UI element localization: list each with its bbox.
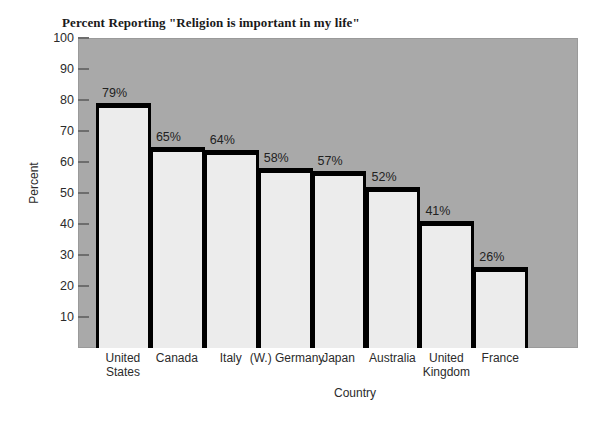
x-axis-label-line: France <box>465 352 535 366</box>
y-axis-tick-label-90: 90 <box>34 63 74 76</box>
x-axis-tick-labels: UnitedStatesCanadaItaly(W.) GermanyJapan… <box>78 352 578 388</box>
y-axis-tick-label-70: 70 <box>34 125 74 138</box>
bar-france <box>473 267 528 348</box>
y-axis-tick-60 <box>78 161 89 163</box>
bar-value-label-6: 41% <box>425 205 450 218</box>
y-axis-tick-90 <box>78 68 89 70</box>
y-axis-tick-label-30: 30 <box>34 249 74 262</box>
bar-value-label-1: 65% <box>156 131 181 144</box>
bar-value-label-7: 26% <box>479 251 504 264</box>
bar-italy <box>204 150 259 348</box>
y-axis-tick-50 <box>78 192 89 194</box>
bar-value-label-3: 58% <box>264 152 289 165</box>
y-axis-tick-label-80: 80 <box>34 94 74 107</box>
bar-united-states <box>96 103 151 348</box>
bar-united-kingdom <box>419 221 474 348</box>
chart-figure: Percent Reporting "Religion is important… <box>0 0 607 421</box>
plot-area: 79%65%64%58%57%52%41%26% <box>78 38 578 348</box>
y-axis-tick-10 <box>78 316 89 318</box>
bar-value-label-2: 64% <box>210 134 235 147</box>
x-axis-label-line: States <box>88 366 158 380</box>
bar-value-label-5: 52% <box>372 171 397 184</box>
y-axis-tick-40 <box>78 223 89 225</box>
chart-title: Percent Reporting "Religion is important… <box>62 15 360 31</box>
bar-australia <box>366 187 421 348</box>
x-axis-title-text: Country <box>334 386 376 400</box>
y-axis-tick-30 <box>78 254 89 256</box>
bar-value-label-0: 79% <box>102 87 127 100</box>
y-axis-tick-label-60: 60 <box>34 156 74 169</box>
bar-w-germany <box>258 168 313 348</box>
y-axis-tick-label-50: 50 <box>34 187 74 200</box>
x-axis-label-7: France <box>465 352 535 366</box>
y-axis-tick-label-40: 40 <box>34 218 74 231</box>
y-axis-tick-labels: 100908070605040302010 <box>28 38 74 348</box>
y-axis-tick-label-10: 10 <box>34 311 74 324</box>
y-axis-tick-100 <box>78 37 89 39</box>
bar-canada <box>150 147 205 349</box>
y-axis-tick-70 <box>78 130 89 132</box>
y-axis-tick-20 <box>78 285 89 287</box>
y-axis-tick-80 <box>78 99 89 101</box>
bar-japan <box>312 171 367 348</box>
y-axis-tick-label-20: 20 <box>34 280 74 293</box>
bar-value-label-4: 57% <box>318 155 343 168</box>
x-axis-title: Country <box>78 386 578 400</box>
x-axis-label-line: Kingdom <box>411 366 481 380</box>
y-axis-tick-label-100: 100 <box>34 32 74 45</box>
